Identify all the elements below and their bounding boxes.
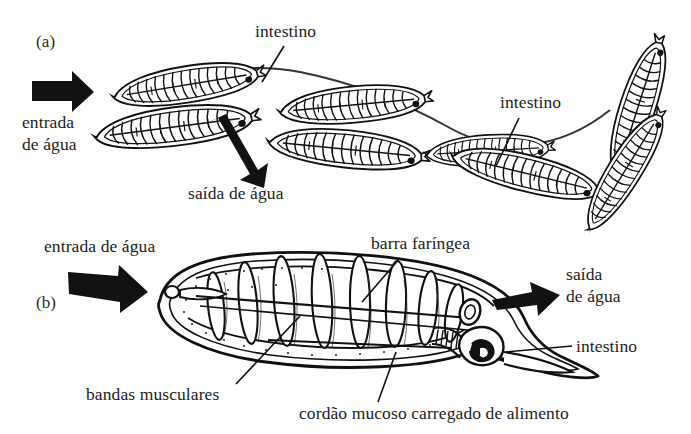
entrada-agua-arrow-b <box>68 265 148 313</box>
label-intestino-b: intestino <box>576 336 637 357</box>
label-saida-agua-b-line1: saída <box>566 264 602 285</box>
label-intestino-a-top: intestino <box>255 21 316 42</box>
label-bandas-musculares: bandas musculares <box>86 384 219 405</box>
label-saida-agua-b-line2: de água <box>566 286 621 307</box>
label-intestino-a-right: intestino <box>500 92 561 113</box>
panel-b-id: (b) <box>36 292 56 313</box>
zooid-a4 <box>262 122 433 177</box>
biology-figure: (a) intestino entrada de água intestino … <box>0 0 691 434</box>
entrada-agua-arrow-a <box>32 71 94 112</box>
label-entrada-agua-a-line1: entrada <box>22 112 74 133</box>
panel-a-id: (a) <box>36 31 55 52</box>
panel-b-artwork <box>68 252 598 402</box>
label-saida-agua-a: saída de água <box>188 183 284 204</box>
intestino-leader-a-top <box>262 46 284 82</box>
panel-a-artwork <box>32 29 678 241</box>
label-cordao-mucoso: cordão mucoso carregado de alimento <box>299 403 569 424</box>
zooid-a3 <box>273 79 435 129</box>
figure-artwork <box>0 0 691 434</box>
label-entrada-agua-b: entrada de água <box>44 236 155 257</box>
label-entrada-agua-a-line2: de água <box>22 134 77 155</box>
label-barra-faringea: barra faríngea <box>371 233 470 254</box>
